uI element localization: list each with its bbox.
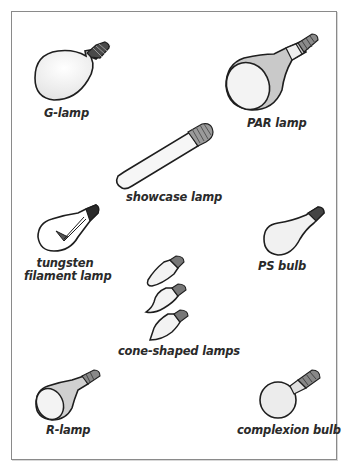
r-lamp-label: R-lamp bbox=[46, 424, 90, 437]
g-lamp-illustration bbox=[30, 38, 115, 108]
complexion-bulb-label: complexion bulb bbox=[237, 424, 341, 437]
complexion-bulb-illustration bbox=[256, 366, 324, 422]
tungsten-filament-lamp-illustration bbox=[34, 203, 102, 255]
tungsten-filament-lamp-label: tungsten filament lamp bbox=[24, 257, 106, 283]
showcase-lamp-illustration bbox=[112, 120, 217, 190]
ps-bulb-label: PS bulb bbox=[258, 260, 306, 273]
r-lamp-illustration bbox=[32, 366, 104, 422]
par-lamp-label: PAR lamp bbox=[247, 117, 306, 130]
tungsten-label-line2: filament lamp bbox=[24, 270, 106, 283]
g-lamp-label: G-lamp bbox=[44, 107, 89, 120]
showcase-lamp-label: showcase lamp bbox=[126, 191, 222, 204]
cone-shaped-lamps-illustration bbox=[144, 252, 204, 344]
ps-bulb-illustration bbox=[260, 205, 330, 260]
par-lamp-illustration bbox=[222, 24, 322, 116]
cone-shaped-lamps-label: cone-shaped lamps bbox=[118, 345, 240, 358]
